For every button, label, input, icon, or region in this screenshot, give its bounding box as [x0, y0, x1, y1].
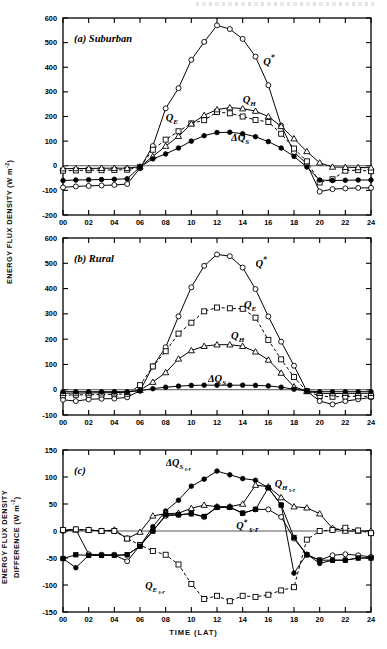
x-tick-label: 18	[290, 218, 298, 227]
curve-label-qstar-c: Q* s-r	[236, 519, 306, 541]
y-tick-label: -100	[42, 186, 57, 195]
curve-label-qh-b: QH	[231, 331, 301, 353]
y-tick-label: 100	[45, 137, 57, 146]
curve-label-qh-c: QH s-r	[275, 479, 345, 501]
x-tick-label: 04	[110, 218, 119, 227]
curve-label-qstar-a: Q*	[263, 54, 333, 76]
y-tick-label: 500	[45, 38, 57, 47]
curve-label-dqs-c: ΔQS s-r	[166, 458, 236, 480]
y-tick-label: -150	[42, 608, 57, 617]
x-tick-label: 04	[110, 615, 119, 624]
figure-energy-balance: ENERGY FLUX DENSITY (W m-2) ENERGY FLUX …	[0, 0, 387, 649]
y-tick-label: -100	[42, 581, 57, 590]
x-tick-label: 12	[213, 218, 221, 227]
x-tick-label: 16	[264, 218, 272, 227]
x-tick-label: 00	[59, 615, 67, 624]
x-tick-label: 22	[341, 418, 349, 427]
y-tick-label: 200	[45, 112, 57, 121]
x-tick-label: 12	[213, 418, 221, 427]
curve-label-qstar-b: Q*	[256, 256, 326, 278]
x-tick-label: 24	[367, 615, 376, 624]
x-tick-label: 02	[85, 218, 93, 227]
y-tick-label: 400	[45, 284, 57, 293]
x-tick-label: 08	[162, 418, 170, 427]
curve-label-qe-b: QE	[244, 300, 314, 322]
x-tick-label: 10	[187, 615, 195, 624]
panel-a-suburban: 6005004003002001000-100-2000002040608101…	[0, 8, 387, 243]
y-tick-label: 0	[53, 161, 57, 170]
x-tick-label: 02	[85, 615, 93, 624]
panel-a-title: (a) Suburban	[74, 34, 144, 56]
y-tick-label: 300	[45, 309, 57, 318]
y-tick-label: 100	[45, 360, 57, 369]
panel-b-rural: 6005004003002001000-10000020406081012141…	[0, 228, 387, 443]
x-tick-label: 14	[239, 418, 248, 427]
curve-label-dqs-b: ΔQS	[208, 374, 278, 396]
x-tick-label: 04	[110, 418, 119, 427]
x-tick-label: 06	[136, 218, 144, 227]
y-tick-label: 300	[45, 87, 57, 96]
y-tick-label: 100	[45, 473, 57, 482]
x-tick-label: 06	[136, 615, 144, 624]
x-tick-label: 18	[290, 418, 298, 427]
x-tick-label: 16	[264, 418, 272, 427]
x-tick-label: 14	[239, 615, 248, 624]
y-tick-label: -200	[42, 211, 57, 220]
x-tick-label: 06	[136, 418, 144, 427]
y-tick-label: -100	[42, 411, 57, 420]
y-tick-label: 600	[45, 14, 57, 23]
y-tick-label: -50	[46, 554, 57, 563]
x-tick-label: 08	[162, 218, 170, 227]
y-tick-label: 400	[45, 63, 57, 72]
y-tick-label: 0	[53, 385, 57, 394]
x-tick-label: 14	[239, 218, 248, 227]
curve-label-dqs-a: ΔQS	[231, 133, 301, 155]
x-tick-label: 08	[162, 615, 170, 624]
curve-label-qe-a: QE	[166, 113, 236, 135]
x-tick-label: 18	[290, 615, 298, 624]
x-tick-label: 00	[59, 218, 67, 227]
y-tick-label: 600	[45, 234, 57, 243]
x-tick-label: 12	[213, 615, 221, 624]
panel-c-difference: 150100500-50-100-15000020406081012141618…	[0, 440, 387, 640]
y-tick-label: 0	[53, 527, 57, 536]
y-tick-label: 500	[45, 259, 57, 268]
series-QE_s-r	[61, 525, 374, 603]
x-tick-label: 10	[187, 418, 195, 427]
x-tick-label: 22	[341, 218, 349, 227]
curve-label-qh-a: QH	[243, 95, 313, 117]
panel-c-title: (c)	[74, 466, 144, 488]
y-tick-label: 200	[45, 335, 57, 344]
series-dQS	[61, 130, 374, 183]
x-tick-label: 22	[341, 615, 349, 624]
page-header-smudge	[196, 2, 374, 6]
x-tick-label: 20	[316, 418, 324, 427]
x-tick-label: 24	[367, 418, 376, 427]
x-tick-label: 20	[316, 615, 324, 624]
x-tick-label: 00	[59, 418, 67, 427]
x-tick-label: 02	[85, 418, 93, 427]
x-tick-label: 10	[187, 218, 195, 227]
y-tick-label: 150	[45, 446, 57, 455]
x-tick-label: 16	[264, 615, 272, 624]
curve-label-qe-c: QE s-r	[145, 581, 215, 603]
y-tick-label: 50	[49, 500, 57, 509]
panel-b-title: (b) Rural	[74, 254, 144, 276]
x-tick-label: 20	[316, 218, 324, 227]
x-tick-label: 24	[367, 218, 376, 227]
